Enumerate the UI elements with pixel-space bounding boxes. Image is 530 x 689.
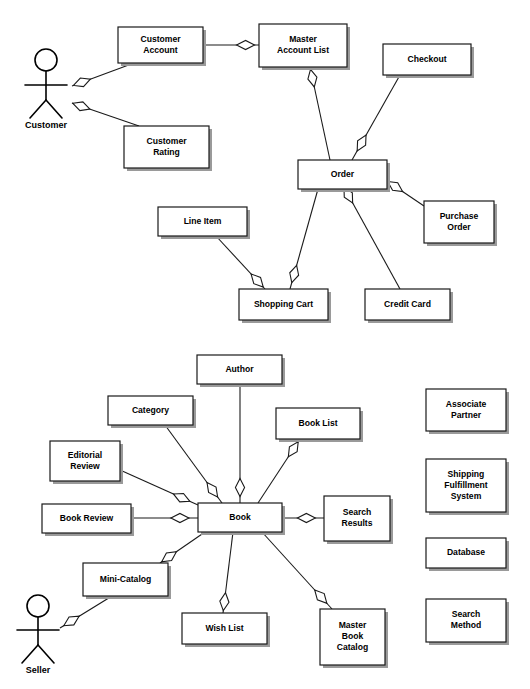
- aggregation-diamond-icon: [171, 513, 189, 522]
- actor-label: Customer: [25, 120, 68, 130]
- association-customer-to-customer-rating: [71, 99, 139, 126]
- class-diagram-canvas: CustomerAccountMasterAccount ListCheckou…: [0, 0, 530, 689]
- class-box-label: Line Item: [184, 216, 222, 226]
- class-box-mini-catalog[interactable]: Mini-Catalog: [83, 563, 171, 599]
- association-order-to-purchase-order: [385, 178, 424, 206]
- class-box-label: Credit Card: [384, 299, 431, 309]
- class-box-book-list[interactable]: Book List: [276, 408, 363, 442]
- actor-right-leg-icon: [46, 100, 62, 118]
- class-box-customer-rating[interactable]: CustomerRating: [124, 126, 212, 171]
- class-box-database[interactable]: Database: [426, 538, 509, 571]
- class-box-wish-list[interactable]: Wish List: [182, 613, 270, 647]
- aggregation-diamond-icon: [172, 490, 192, 506]
- class-box-label: Shopping Cart: [254, 299, 313, 309]
- association-book-to-wish-list: [219, 532, 233, 613]
- class-box-credit-card[interactable]: Credit Card: [365, 289, 453, 323]
- association-line-item-to-shopping-cart: [216, 236, 267, 290]
- actor-label: Seller: [26, 665, 51, 675]
- uml-class-diagram-svg: CustomerAccountMasterAccount ListCheckou…: [0, 0, 530, 689]
- class-box-editorial-review[interactable]: EditorialReview: [50, 441, 123, 484]
- actor-left-leg-icon: [22, 645, 38, 663]
- class-box-label: Order: [331, 169, 355, 179]
- class-box-label: Checkout: [407, 54, 446, 64]
- aggregation-diamond-icon: [72, 75, 92, 90]
- class-box-order[interactable]: Order: [298, 160, 390, 192]
- association-book-list-to-book: [258, 439, 302, 503]
- class-box-label: SearchResults: [341, 507, 372, 528]
- class-box-label: Book: [229, 512, 251, 522]
- class-box-author[interactable]: Author: [197, 355, 285, 387]
- class-box-associate-partner[interactable]: AssociatePartner: [426, 389, 509, 434]
- class-box-layer: CustomerAccountMasterAccount ListCheckou…: [42, 24, 509, 668]
- class-box-shipping-system[interactable]: ShippingFulfillmentSystem: [426, 459, 509, 515]
- actor-left-leg-icon: [30, 100, 46, 118]
- class-box-shopping-cart[interactable]: Shopping Cart: [239, 289, 331, 323]
- aggregation-diamond-icon: [61, 612, 81, 629]
- association-checkout-to-order: [352, 75, 400, 160]
- aggregation-diamond-icon: [287, 264, 301, 284]
- association-order-to-credit-card: [340, 185, 400, 289]
- class-box-label: Book List: [298, 418, 337, 428]
- class-box-purchase-order[interactable]: PurchaseOrder: [424, 201, 497, 246]
- association-book-to-master-book-catalog: [262, 532, 332, 609]
- class-box-line-item[interactable]: Line Item: [158, 207, 250, 239]
- aggregation-diamond-icon: [297, 513, 315, 522]
- class-box-label: Author: [225, 364, 254, 374]
- class-box-label: EditorialReview: [68, 450, 102, 471]
- class-box-category[interactable]: Category: [108, 396, 196, 428]
- class-box-book-review[interactable]: Book Review: [42, 504, 134, 536]
- actor-layer: CustomerSeller: [17, 49, 67, 675]
- aggregation-diamond-icon: [71, 99, 91, 114]
- aggregation-diamond-icon: [311, 587, 330, 607]
- class-box-label: CustomerAccount: [140, 34, 181, 55]
- actor-head-icon: [35, 49, 57, 71]
- aggregation-diamond-icon: [306, 68, 319, 88]
- association-master-account-list-to-order: [306, 67, 330, 160]
- aggregation-diamond-icon: [219, 592, 230, 611]
- class-box-label: Book Review: [60, 513, 114, 523]
- association-customer-to-customer-account: [72, 63, 134, 90]
- association-category-to-book: [165, 425, 222, 503]
- association-author-to-book: [235, 384, 244, 503]
- aggregation-diamond-icon: [284, 439, 302, 459]
- aggregation-diamond-icon: [237, 40, 255, 49]
- association-seller-to-mini-catalog: [60, 596, 112, 630]
- class-box-label: Category: [132, 405, 169, 415]
- class-box-label: Mini-Catalog: [100, 574, 152, 584]
- association-customer-account-to-master: [203, 40, 259, 49]
- class-box-search-method[interactable]: SearchMethod: [426, 599, 509, 645]
- class-box-label: SearchMethod: [451, 609, 482, 630]
- association-line: [345, 189, 400, 289]
- actor-seller[interactable]: Seller: [17, 595, 59, 675]
- association-order-to-shopping-cart: [287, 189, 318, 289]
- class-box-search-results[interactable]: SearchResults: [324, 496, 393, 544]
- actor-customer[interactable]: Customer: [25, 49, 68, 130]
- class-box-label: Database: [447, 547, 485, 557]
- class-box-master-book-catalog[interactable]: MasterBookCatalog: [320, 609, 388, 668]
- association-book-to-search-results: [282, 513, 324, 522]
- class-box-book[interactable]: Book: [198, 503, 285, 535]
- class-box-checkout[interactable]: Checkout: [383, 44, 474, 78]
- class-box-customer-account[interactable]: CustomerAccount: [118, 27, 206, 66]
- aggregation-diamond-icon: [203, 480, 221, 500]
- association-editorial-review-to-book: [120, 470, 198, 506]
- aggregation-diamond-icon: [235, 479, 244, 497]
- association-mini-catalog-to-book: [159, 532, 205, 566]
- class-box-label: AssociatePartner: [446, 399, 487, 420]
- actor-head-icon: [27, 595, 49, 617]
- class-box-label: Wish List: [205, 623, 243, 633]
- actor-right-leg-icon: [38, 645, 54, 663]
- association-book-review-to-book: [131, 513, 198, 522]
- aggregation-diamond-icon: [353, 133, 370, 153]
- aggregation-diamond-icon: [248, 271, 267, 290]
- class-box-master-account-list[interactable]: MasterAccount List: [259, 24, 350, 70]
